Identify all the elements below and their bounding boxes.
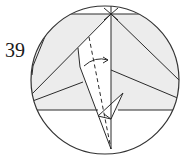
origami-diagram (0, 0, 190, 163)
